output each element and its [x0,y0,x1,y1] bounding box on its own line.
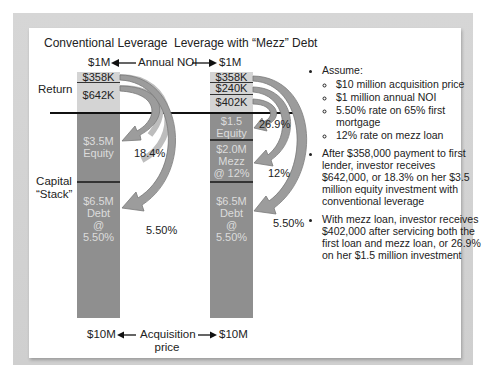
acq-label: Acquisition price [140,328,194,354]
note-conventional: After $358,000 payment to first lender, … [322,147,482,207]
right-debt-return-rate: 5.50% [273,217,304,229]
left-arrows [120,75,176,211]
assume-heading: Assume: [322,64,363,76]
right-equity-return-rate: 26.9% [259,118,290,130]
assumption-item: 5.50% rate on 65% first mortgage [336,104,482,128]
assumption-item: 12% rate on mezz loan [336,129,482,141]
notes-list: Assume: $10 million acquisition price $1… [308,64,482,267]
right-mezz-return-rate: 12% [268,167,290,179]
left-debt-return-rate: 5.50% [146,224,177,236]
arrow-right-icon [198,330,218,340]
note-mezz: With mezz loan, investor receives $402,0… [322,213,482,261]
acq-label-line2: price [140,341,194,354]
acq-left-value: $10M [87,328,116,341]
arrow-left-icon [117,330,137,340]
left-equity-return-rate: 18.4% [134,147,165,159]
assumptions-list: $10 million acquisition price $1 million… [322,78,482,141]
acq-label-line1: Acquisition [140,328,194,341]
assumption-item: $10 million acquisition price [336,78,482,90]
note-assume: Assume: $10 million acquisition price $1… [322,64,482,141]
right-arrows [253,76,307,214]
assumption-item: $1 million annual NOI [336,91,482,103]
acq-right-value: $10M [219,328,248,341]
